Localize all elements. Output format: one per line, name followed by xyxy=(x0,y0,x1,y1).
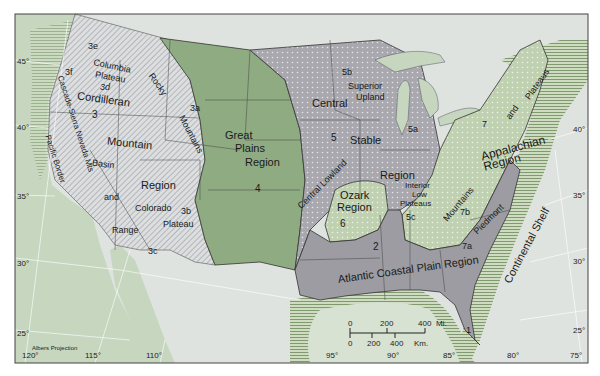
label-stable: Stable xyxy=(350,135,381,146)
scale-mi-unit: Mi. xyxy=(436,320,447,328)
label-region-plains: Region xyxy=(245,157,280,168)
label-great: Great xyxy=(225,130,253,141)
lon-75: 75° xyxy=(570,352,582,360)
label-colorado: Colorado xyxy=(135,204,172,213)
map-canvas xyxy=(0,0,600,376)
label-3d: 3d xyxy=(100,83,110,92)
lat-30-right: 30° xyxy=(573,258,585,266)
label-region-cordilleran: Region xyxy=(141,180,176,191)
lat-35-right: 35° xyxy=(573,192,585,200)
lon-85: 85° xyxy=(443,352,455,360)
lat-40-right: 40° xyxy=(573,126,585,134)
scale-mi-200: 200 xyxy=(380,320,393,328)
label-3c: 3c xyxy=(148,247,158,256)
lat-25-right: 25° xyxy=(573,327,585,335)
lon-110: 110° xyxy=(146,352,162,360)
label-1: 1 xyxy=(466,326,471,335)
lon-80: 80° xyxy=(507,352,519,360)
label-5: 5 xyxy=(331,133,337,143)
physiographic-map: 3e 3f Columbia Plateau 3d Rocky Cordille… xyxy=(0,0,600,376)
label-range: Range xyxy=(112,226,139,235)
lat-35-left: 35° xyxy=(17,193,29,201)
label-7a: 7a xyxy=(462,242,472,251)
lon-120: 120° xyxy=(22,352,39,360)
label-5a: 5a xyxy=(408,125,418,134)
label-plateau: Plateau xyxy=(163,220,194,229)
label-4: 4 xyxy=(255,184,261,194)
label-interior: Interior xyxy=(405,182,430,190)
label-region-ozark: Region xyxy=(337,202,372,213)
scale-km-200: 200 xyxy=(367,340,380,348)
label-plateaus-interior: Plateaus xyxy=(400,200,431,208)
scale-km-unit: Km. xyxy=(414,340,428,348)
label-upland: Upland xyxy=(356,93,385,102)
label-region-central: Region xyxy=(380,170,415,181)
label-superior: Superior xyxy=(348,82,382,91)
scale-km-400: 400 xyxy=(390,340,403,348)
lat-40-left: 40° xyxy=(17,124,29,132)
label-plains: Plains xyxy=(235,143,265,154)
scale-mi-0: 0 xyxy=(348,320,352,328)
lon-90: 90° xyxy=(387,352,399,360)
lat-25-left: 25° xyxy=(17,330,29,338)
scale-mi-400: 400 xyxy=(418,320,431,328)
label-3e: 3e xyxy=(88,42,98,51)
label-3a: 3a xyxy=(190,104,200,113)
label-3: 3 xyxy=(92,110,98,120)
label-ozark: Ozark xyxy=(340,190,369,201)
label-7b: 7b xyxy=(460,208,470,217)
lon-95: 95° xyxy=(326,352,338,360)
label-6: 6 xyxy=(340,219,346,229)
label-5c: 5c xyxy=(406,213,416,222)
label-central: Central xyxy=(312,98,347,109)
label-2: 2 xyxy=(373,242,379,252)
lat-45-left: 45° xyxy=(17,58,29,66)
lat-30-left: 30° xyxy=(17,260,29,268)
label-3b: 3b xyxy=(181,207,191,216)
label-3f: 3f xyxy=(65,68,73,77)
label-7: 7 xyxy=(482,120,487,129)
lon-115: 115° xyxy=(85,352,101,360)
label-5b: 5b xyxy=(342,68,352,77)
label-low: Low xyxy=(412,191,427,199)
label-and: and xyxy=(104,193,119,202)
scale-km-0: 0 xyxy=(348,340,352,348)
projection-label: Albers Projection xyxy=(32,345,77,351)
